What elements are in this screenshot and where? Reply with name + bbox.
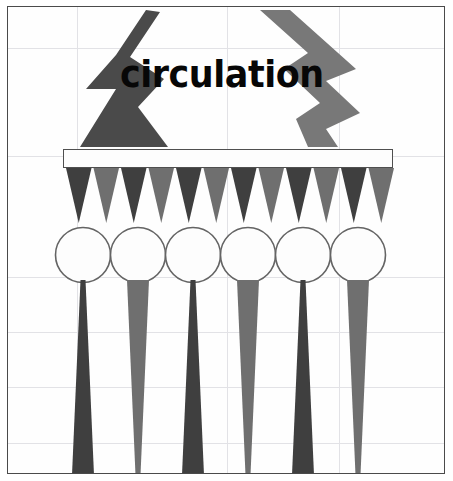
triangle-6 xyxy=(231,168,257,223)
artwork-frame: circulation xyxy=(7,6,445,474)
circle-5 xyxy=(331,228,386,283)
triangle-4 xyxy=(176,168,202,223)
triangle-11 xyxy=(369,168,395,223)
spike-0 xyxy=(72,280,94,474)
spike-3 xyxy=(237,280,259,474)
circle-1 xyxy=(111,228,166,283)
spike-row xyxy=(72,280,369,474)
triangle-7 xyxy=(259,168,285,223)
horizontal-plate xyxy=(63,149,393,168)
triangle-0 xyxy=(66,168,92,223)
triangle-3 xyxy=(149,168,175,223)
spike-4 xyxy=(292,280,314,474)
spike-5 xyxy=(347,280,369,474)
circle-2 xyxy=(166,228,221,283)
triangle-2 xyxy=(121,168,147,223)
triangle-9 xyxy=(314,168,340,223)
circle-4 xyxy=(276,228,331,283)
spike-2 xyxy=(182,280,204,474)
triangle-1 xyxy=(94,168,120,223)
page-title: circulation xyxy=(120,55,324,93)
circle-row xyxy=(56,228,386,283)
triangle-5 xyxy=(204,168,230,223)
spike-1 xyxy=(127,280,149,474)
artwork-canvas: circulation xyxy=(0,0,453,481)
triangle-8 xyxy=(286,168,312,223)
triangle-10 xyxy=(341,168,367,223)
circle-3 xyxy=(221,228,276,283)
triangle-row xyxy=(66,168,394,223)
circle-0 xyxy=(56,228,111,283)
